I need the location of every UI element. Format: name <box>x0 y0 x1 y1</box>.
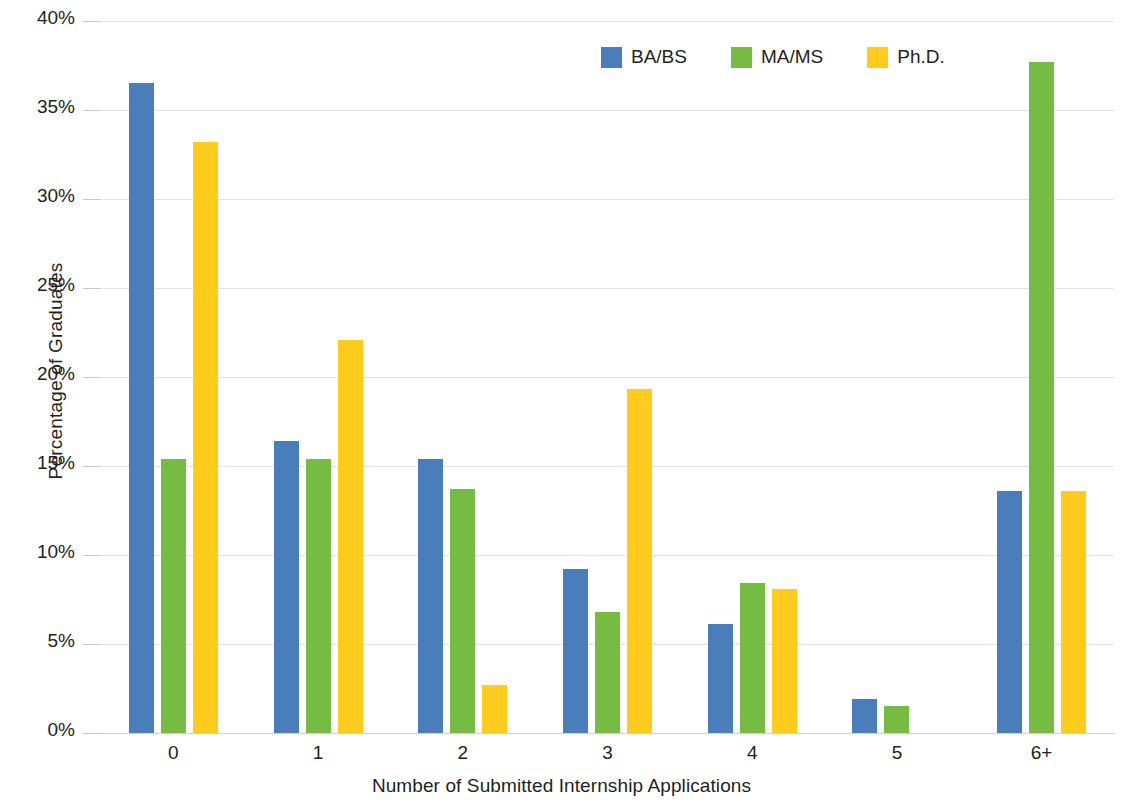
y-axis-tick-label: 5% <box>48 631 75 650</box>
y-axis-tick-label: 10% <box>37 542 75 561</box>
x-axis-tick-label: 0 <box>101 742 246 764</box>
legend-swatch-icon <box>601 47 622 68</box>
legend: BA/BSMA/MSPh.D. <box>601 46 945 68</box>
bar-chart: Percentage of Graduates 0%5%10%15%20%25%… <box>0 0 1123 806</box>
x-axis-tick-label: 4 <box>680 742 825 764</box>
y-axis-tick-label: 0% <box>48 720 75 739</box>
y-axis-tick-label: 25% <box>37 275 75 294</box>
legend-label: BA/BS <box>631 46 687 68</box>
y-axis-tick: 40% <box>0 21 101 22</box>
x-axis-tick-label: 3 <box>535 742 680 764</box>
y-axis-tick: 10% <box>0 555 101 556</box>
y-axis-tick-label: 35% <box>37 97 75 116</box>
y-axis-tick-mark <box>83 377 101 378</box>
x-axis-tick-label: 2 <box>390 742 535 764</box>
y-axis-tick: 0% <box>0 733 101 734</box>
y-axis-tick-mark <box>83 733 101 734</box>
x-axis-tick-label: 6+ <box>969 742 1114 764</box>
y-axis-tick-label: 30% <box>37 186 75 205</box>
y-axis-tick-mark <box>83 110 101 111</box>
y-axis-tick-mark <box>83 466 101 467</box>
y-axis-tick-mark <box>83 644 101 645</box>
x-axis-tick-label: 1 <box>246 742 391 764</box>
x-axis-title: Number of Submitted Internship Applicati… <box>0 775 1123 797</box>
legend-item-mams[interactable]: MA/MS <box>731 46 823 68</box>
y-axis-ticks: 0%5%10%15%20%25%30%35%40% <box>0 0 1123 806</box>
y-axis-tick-mark <box>83 199 101 200</box>
legend-label: Ph.D. <box>897 46 945 68</box>
legend-label: MA/MS <box>761 46 823 68</box>
y-axis-tick-mark <box>83 288 101 289</box>
y-axis-tick-label: 20% <box>37 364 75 383</box>
x-axis-tick-label: 5 <box>825 742 970 764</box>
y-axis-tick: 15% <box>0 466 101 467</box>
y-axis-tick-label: 15% <box>37 453 75 472</box>
y-axis-tick-mark <box>83 21 101 22</box>
y-axis-tick: 5% <box>0 644 101 645</box>
legend-swatch-icon <box>731 47 752 68</box>
y-axis-tick: 20% <box>0 377 101 378</box>
y-axis-tick: 25% <box>0 288 101 289</box>
legend-item-phd[interactable]: Ph.D. <box>867 46 945 68</box>
y-axis-tick: 35% <box>0 110 101 111</box>
y-axis-tick: 30% <box>0 199 101 200</box>
legend-item-babs[interactable]: BA/BS <box>601 46 687 68</box>
legend-swatch-icon <box>867 47 888 68</box>
y-axis-tick-label: 40% <box>37 8 75 27</box>
y-axis-tick-mark <box>83 555 101 556</box>
